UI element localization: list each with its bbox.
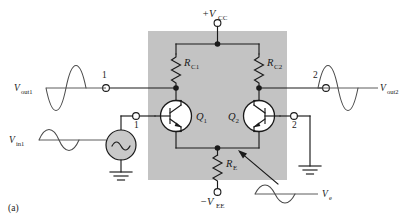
collector1-junction-dot <box>173 85 179 91</box>
vout2-waveform <box>318 66 378 111</box>
ground-right <box>299 166 321 174</box>
q1-label-subscript: 1 <box>204 117 208 125</box>
vin1-waveform <box>39 130 106 151</box>
input1-terminal[interactable] <box>133 113 140 120</box>
terminal-label-2-top: 2 <box>313 70 318 80</box>
ve-waveform <box>255 185 318 203</box>
vout1-label-subscript: out1 <box>21 88 33 95</box>
terminal-label-2-base: 2 <box>292 120 297 130</box>
ground-left <box>110 172 132 180</box>
rc2-label-subscript: C2 <box>274 63 283 71</box>
figure-caption: (a) <box>8 203 19 213</box>
vee-label-subscript: EE <box>216 202 225 210</box>
terminal-label-1-top: 1 <box>102 70 107 80</box>
terminal-label-1-base: 1 <box>134 120 139 130</box>
input2-terminal[interactable] <box>291 113 298 120</box>
collector2-junction-dot <box>256 85 262 91</box>
vcc-label-subscript: CC <box>218 14 228 22</box>
ve-label: V <box>322 189 329 199</box>
vee-label: −V <box>200 196 215 207</box>
vee-terminal-node[interactable] <box>214 189 221 196</box>
circuit-figure: +V CC R C1 R C2 1 2 <box>0 0 417 224</box>
vout1-label: V <box>14 83 21 93</box>
vin1-label: V <box>9 135 16 145</box>
vout2-label-subscript: out2 <box>387 88 399 95</box>
vin1-label-subscript: in1 <box>16 140 24 147</box>
rc2-label: R <box>266 57 274 68</box>
ve-label-subscript: e <box>329 194 332 201</box>
vout2-label: V <box>380 83 387 93</box>
ac-source[interactable] <box>106 130 136 172</box>
re-label: R <box>225 158 233 169</box>
rc1-label-subscript: C1 <box>191 63 200 71</box>
rc1-label: R <box>183 57 191 68</box>
circuit-svg: +V CC R C1 R C2 1 2 <box>0 0 417 224</box>
vcc-label: +V <box>202 8 217 19</box>
q2-label-subscript: 2 <box>236 117 240 125</box>
re-label-subscript: E <box>233 164 237 172</box>
vout1-waveform <box>46 66 106 111</box>
